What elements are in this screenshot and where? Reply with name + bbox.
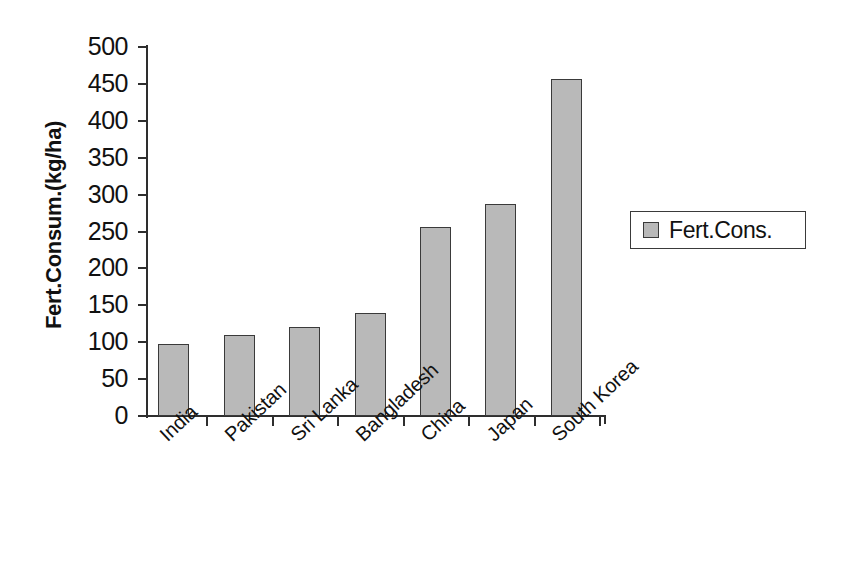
- y-axis-tick: [138, 341, 147, 343]
- x-axis-tick: [403, 417, 405, 426]
- x-axis-tick: [534, 417, 536, 426]
- y-axis-tick: [138, 304, 147, 306]
- y-axis-tick: [138, 194, 147, 196]
- y-axis-tick-label: 300: [8, 182, 128, 207]
- bar: [551, 79, 582, 416]
- legend-swatch-icon: [643, 222, 659, 238]
- y-axis-tick: [138, 46, 147, 48]
- y-axis-tick: [138, 157, 147, 159]
- y-axis-tick-label: 400: [8, 108, 128, 133]
- x-axis-tick: [272, 417, 274, 426]
- y-axis-tick: [138, 231, 147, 233]
- bar-chart-figure: Fert.Consum.(kg/ha) 05010015020025030035…: [0, 0, 846, 579]
- y-axis-tick-label: 450: [8, 71, 128, 96]
- chart-legend: Fert.Cons.: [630, 211, 806, 249]
- y-axis-tick: [138, 415, 147, 417]
- x-axis-tick: [468, 417, 470, 426]
- y-axis-tick: [138, 267, 147, 269]
- y-axis-tick: [138, 120, 147, 122]
- y-axis-tick-label: 0: [8, 403, 128, 428]
- x-axis-tick: [206, 417, 208, 426]
- y-axis-tick: [138, 83, 147, 85]
- x-axis-tick: [599, 417, 601, 426]
- y-axis-tick-label: 200: [8, 255, 128, 280]
- y-axis-tick-label: 50: [8, 366, 128, 391]
- y-axis-tick: [138, 378, 147, 380]
- y-axis-tick-label: 150: [8, 292, 128, 317]
- legend-entry-label: Fert.Cons.: [669, 219, 772, 242]
- y-axis-tick-label: 500: [8, 34, 128, 59]
- y-axis-tick-label: 100: [8, 329, 128, 354]
- x-axis-tick: [337, 417, 339, 426]
- y-axis-tick-label: 250: [8, 219, 128, 244]
- y-axis-tick-label: 350: [8, 145, 128, 170]
- bar: [485, 204, 516, 416]
- x-axis-end-tick: [604, 415, 606, 424]
